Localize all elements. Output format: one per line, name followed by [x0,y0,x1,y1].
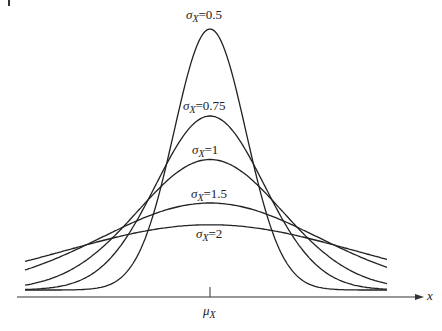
label-sigma-1: σX=1 [192,142,218,159]
label-mu-x: μX [203,303,216,320]
x-axis-arrow-icon [415,294,424,300]
plot-area [0,0,442,331]
curve-sigma-1 [25,160,387,286]
label-sigma-0.5: σX=0.5 [186,7,222,24]
label-sigma-2: σX=2 [196,226,222,243]
label-sigma-0.75: σX=0.75 [183,98,226,115]
label-sigma-1.5: σX=1.5 [191,186,227,203]
x-axis-label: x [427,288,433,304]
